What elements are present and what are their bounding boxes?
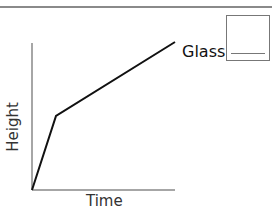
y-axis-label: Height xyxy=(4,97,22,157)
answer-blank-line xyxy=(231,53,265,55)
glass-line xyxy=(32,42,175,190)
answer-box[interactable] xyxy=(226,15,270,61)
series-label: Glass xyxy=(182,42,225,61)
x-axis-label: Time xyxy=(86,192,123,210)
